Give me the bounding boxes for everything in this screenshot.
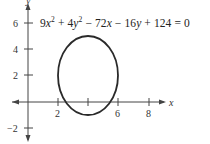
y-tick-label-4: 4 [13, 44, 18, 55]
x-axis-arrow-right-icon [159, 100, 166, 105]
x-tick-label-2: 2 [55, 108, 60, 119]
y-tick-label-neg2: −2 [7, 123, 18, 134]
y-tick-label-6: 6 [13, 18, 18, 29]
y-axis-label: y [25, 0, 31, 6]
x-tick-label-8: 8 [146, 108, 151, 119]
x-tick-label-6: 6 [115, 108, 120, 119]
equation-annotation: 9x2 + 4y2 − 72x − 16y + 124 = 0 [40, 17, 190, 29]
y-axis-arrow-down-icon [26, 135, 31, 142]
x-axis-label: x [168, 97, 174, 108]
y-tick-label-2: 2 [13, 70, 18, 81]
x-axis-arrow-left-icon [12, 100, 19, 105]
